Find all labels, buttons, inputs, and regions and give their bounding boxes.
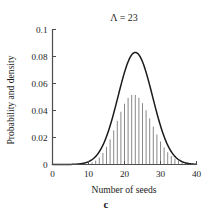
- y-tick-label: 0.04: [31, 106, 47, 116]
- chart-title: Λ = 23: [110, 12, 138, 23]
- figure-panel: Λ = 23 Probability and density Number of…: [0, 0, 212, 222]
- x-axis-label: Number of seeds: [91, 184, 156, 195]
- y-axis-label: Probability and density: [5, 55, 16, 144]
- x-tick-label: 10: [84, 169, 94, 179]
- poisson-density-chart: Λ = 23 Probability and density Number of…: [0, 0, 212, 222]
- x-tick-label: 30: [156, 169, 166, 179]
- y-tick-label: 0.06: [31, 79, 47, 89]
- x-tick-label: 0: [50, 169, 55, 179]
- x-tick-label: 20: [120, 169, 130, 179]
- y-tick-label: 0: [43, 160, 48, 170]
- x-tick-label: 40: [192, 169, 202, 179]
- y-tick-label: 0.1: [36, 25, 48, 35]
- y-tick-label: 0.02: [31, 133, 47, 143]
- y-tick-label: 0.08: [31, 52, 47, 62]
- panel-caption: c: [0, 198, 212, 210]
